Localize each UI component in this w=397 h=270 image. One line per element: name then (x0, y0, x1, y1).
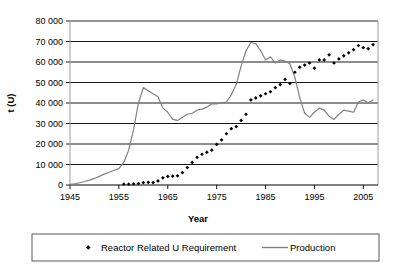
y-axis-tick-labels: 010 00020 00030 00040 00050 00060 00070 … (35, 16, 63, 190)
uranium-production-requirement-chart: 010 00020 00030 00040 00050 00060 00070 … (0, 0, 397, 270)
chart-container: 010 00020 00030 00040 00050 00060 00070 … (0, 0, 397, 270)
y-axis-tick-label: 50 000 (35, 78, 63, 88)
y-axis-tick-label: 70 000 (35, 37, 63, 47)
x-axis-tick-label: 1995 (304, 192, 324, 202)
legend-item-reactor-requirement[interactable]: Reactor Related U Requirement (86, 242, 237, 253)
x-axis-tick-label: 1945 (60, 192, 80, 202)
x-axis-tick-label: 1955 (109, 192, 129, 202)
y-axis-tick-label: 60 000 (35, 57, 63, 67)
x-axis-tick-label: 1975 (207, 192, 227, 202)
y-axis-tick-label: 0 (58, 180, 63, 190)
y-axis-tick-label: 80 000 (35, 16, 63, 26)
y-axis-tick-label: 20 000 (35, 139, 63, 149)
x-axis-tick-label: 2005 (353, 192, 373, 202)
x-axis-tick-label: 1965 (158, 192, 178, 202)
y-axis-title: t (U) (5, 94, 16, 113)
y-axis-tick-label: 40 000 (35, 98, 63, 108)
legend-label-production: Production (290, 242, 335, 253)
y-axis-tick-label: 30 000 (35, 119, 63, 129)
x-axis-tick-label: 1985 (256, 192, 276, 202)
legend-label-reactor-requirement: Reactor Related U Requirement (101, 242, 237, 253)
x-axis-title: Year (188, 213, 208, 224)
y-axis-tick-label: 10 000 (35, 160, 63, 170)
legend: Reactor Related U Requirement Production (32, 234, 379, 261)
